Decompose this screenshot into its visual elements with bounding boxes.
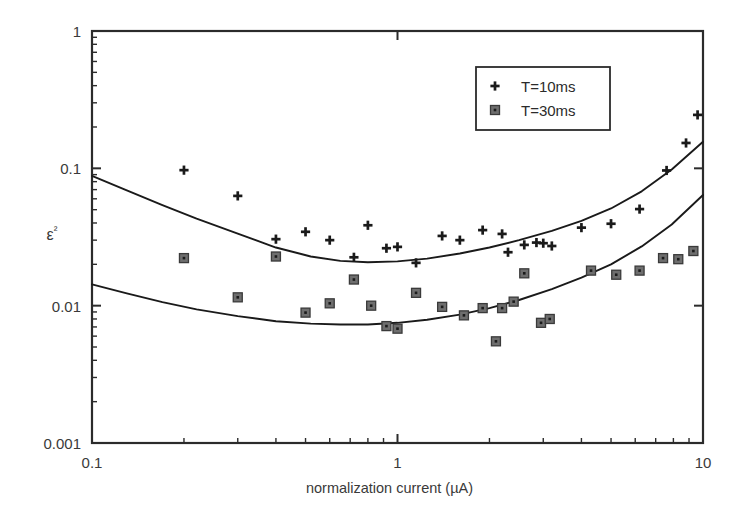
marker-plus bbox=[577, 223, 586, 232]
marker-square bbox=[491, 106, 500, 115]
marker-square bbox=[412, 288, 421, 297]
y-tick-label: 0.1 bbox=[60, 160, 81, 177]
marker-square bbox=[382, 322, 391, 331]
series-t-10ms bbox=[179, 110, 702, 267]
marker-square bbox=[520, 269, 529, 278]
marker-plus bbox=[325, 236, 334, 245]
marker-square bbox=[179, 254, 188, 263]
marker-plus bbox=[662, 166, 671, 175]
legend-label: T=30ms bbox=[521, 102, 576, 119]
data-points bbox=[179, 110, 702, 346]
marker-plus bbox=[606, 219, 615, 228]
marker-square bbox=[509, 297, 518, 306]
axis-ticks bbox=[92, 31, 703, 443]
legend: T=10msT=30ms bbox=[476, 67, 610, 130]
marker-plus bbox=[179, 166, 188, 175]
x-tick-label: 10 bbox=[695, 454, 712, 471]
marker-plus bbox=[455, 236, 464, 245]
marker-square bbox=[659, 254, 668, 263]
marker-plus bbox=[498, 229, 507, 238]
marker-square bbox=[491, 337, 500, 346]
marker-plus bbox=[438, 231, 447, 240]
marker-square bbox=[689, 247, 698, 256]
marker-plus bbox=[233, 191, 242, 200]
marker-plus bbox=[635, 204, 644, 213]
marker-square bbox=[349, 275, 358, 284]
legend-label: T=10ms bbox=[521, 78, 576, 95]
y-axis-title: ε² bbox=[47, 224, 58, 243]
plot-frame bbox=[92, 31, 703, 443]
marker-square bbox=[393, 324, 402, 333]
marker-plus bbox=[301, 227, 310, 236]
marker-square bbox=[498, 304, 507, 313]
marker-plus bbox=[547, 241, 556, 250]
marker-square bbox=[545, 314, 554, 323]
marker-plus bbox=[539, 239, 548, 248]
plot-border bbox=[92, 31, 703, 443]
marker-plus bbox=[520, 240, 529, 249]
scatter-plot: 0.11100.0010.010.11 T=10msT=30ms normali… bbox=[0, 0, 741, 518]
marker-square bbox=[674, 255, 683, 264]
marker-plus bbox=[503, 248, 512, 257]
y-tick-label: 1 bbox=[73, 23, 81, 40]
marker-square bbox=[459, 311, 468, 320]
axis-tick-labels: 0.11100.0010.010.11 bbox=[43, 23, 711, 471]
marker-square bbox=[478, 304, 487, 313]
marker-plus bbox=[478, 226, 487, 235]
marker-square bbox=[612, 270, 621, 279]
y-tick-label: 0.001 bbox=[43, 435, 81, 452]
marker-square bbox=[233, 293, 242, 302]
marker-plus bbox=[393, 242, 402, 251]
y-tick-label: 0.01 bbox=[52, 298, 81, 315]
marker-square bbox=[635, 266, 644, 275]
figure-container: 0.11100.0010.010.11 T=10msT=30ms normali… bbox=[0, 0, 741, 518]
marker-square bbox=[587, 266, 596, 275]
marker-plus bbox=[382, 244, 391, 253]
marker-plus bbox=[271, 235, 280, 244]
marker-square bbox=[325, 299, 334, 308]
x-axis-title: normalization current (µA) bbox=[306, 480, 473, 496]
marker-square bbox=[301, 308, 310, 317]
legend-box bbox=[476, 67, 610, 130]
marker-square bbox=[537, 318, 546, 327]
marker-plus bbox=[363, 221, 372, 230]
marker-plus bbox=[693, 110, 702, 119]
series-t-30ms bbox=[179, 247, 697, 346]
axis-titles: normalization current (µA)ε² bbox=[47, 224, 473, 496]
x-tick-label: 0.1 bbox=[82, 454, 103, 471]
marker-square bbox=[438, 302, 447, 311]
marker-square bbox=[271, 252, 280, 261]
marker-plus bbox=[681, 138, 690, 147]
marker-square bbox=[367, 301, 376, 310]
x-tick-label: 1 bbox=[393, 454, 401, 471]
